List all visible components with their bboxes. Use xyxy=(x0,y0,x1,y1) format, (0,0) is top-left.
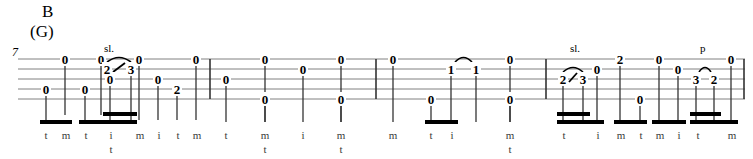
fret-number: 0 xyxy=(507,92,514,107)
fret-number: 0 xyxy=(728,52,735,67)
pull-off-arc xyxy=(699,68,711,73)
beam-2 xyxy=(79,120,137,124)
fingering-letter-secondary: t xyxy=(258,143,272,155)
fingering-letter: m xyxy=(725,129,739,141)
slide-line-4 xyxy=(569,73,577,82)
beam-9 xyxy=(690,120,738,124)
fingering-letter: m xyxy=(503,129,517,141)
beam-8 xyxy=(652,120,686,124)
fret-number: 0 xyxy=(675,62,682,77)
fret-number: 2 xyxy=(104,62,111,77)
fingering-letter: t xyxy=(691,129,705,141)
fingering-letter: i xyxy=(591,129,605,141)
fingering-letter: m xyxy=(190,129,204,141)
fingering-letter: i xyxy=(104,129,118,141)
fingering-letter: i xyxy=(445,129,459,141)
fret-number: 0 xyxy=(262,92,269,107)
fingering-letter: t xyxy=(219,129,233,141)
fingering-letter: m xyxy=(386,129,400,141)
slide-line-1 xyxy=(113,63,125,72)
fingering-letter: m xyxy=(334,129,348,141)
fingering-letter: m xyxy=(614,129,628,141)
fingering-letter-secondary: t xyxy=(503,143,517,155)
fingering-letter: t xyxy=(634,129,648,141)
fret-number: 3 xyxy=(693,72,700,87)
beam-4 xyxy=(425,120,458,124)
fingering-letter: t xyxy=(557,129,571,141)
fret-number: 2 xyxy=(174,82,181,97)
fingering-letter: i xyxy=(672,129,686,141)
fret-number: 0 xyxy=(338,52,345,67)
fret-number: 0 xyxy=(193,52,200,67)
fret-number: 0 xyxy=(155,72,162,87)
fret-number: 0 xyxy=(428,92,435,107)
fret-number: 0 xyxy=(300,62,307,77)
fingering-letter: m xyxy=(59,129,73,141)
fret-number: 3 xyxy=(580,72,587,87)
beam-6 xyxy=(557,112,590,116)
fret-number: 0 xyxy=(507,52,514,67)
fret-number: 2 xyxy=(711,72,718,87)
fingering-letter: t xyxy=(424,129,438,141)
fret-number: 0 xyxy=(338,92,345,107)
fret-number: 0 xyxy=(223,72,230,87)
hammer-on-arc xyxy=(455,58,472,63)
fret-number: 0 xyxy=(43,82,50,97)
beam-7 xyxy=(614,120,647,124)
fingering-letter-secondary: t xyxy=(104,143,118,155)
fingering-letter: t xyxy=(79,129,93,141)
fingering-letter: m xyxy=(653,129,667,141)
fingering-letter: t xyxy=(39,129,53,141)
fret-number: 2 xyxy=(560,72,567,87)
fingering-letter: m xyxy=(258,129,272,141)
fret-number: 2 xyxy=(617,52,624,67)
fret-number: 0 xyxy=(82,82,89,97)
fingering-letter: t xyxy=(171,129,185,141)
fret-number: 0 xyxy=(656,52,663,67)
fret-number: 1 xyxy=(448,62,455,77)
fret-number: 3 xyxy=(128,62,135,77)
fret-number: 0 xyxy=(136,52,143,67)
fingering-letter: m xyxy=(133,129,147,141)
fingering-letter: i xyxy=(152,129,166,141)
fret-number: 0 xyxy=(390,52,397,67)
fret-number: 0 xyxy=(262,52,269,67)
fret-number: 0 xyxy=(637,92,644,107)
fret-number: 0 xyxy=(594,62,601,77)
tablature-sheet: B (G) 7 sl. sl. p 0000023002000000000110… xyxy=(0,0,753,159)
beam-1 xyxy=(40,120,72,124)
beam-3 xyxy=(103,112,137,116)
fret-number: 0 xyxy=(62,52,69,67)
beam-5 xyxy=(557,120,604,124)
fingering-letter: i xyxy=(296,129,310,141)
fret-number: 1 xyxy=(473,62,480,77)
fingering-letter-secondary: t xyxy=(334,143,348,155)
beam-10 xyxy=(690,112,721,116)
